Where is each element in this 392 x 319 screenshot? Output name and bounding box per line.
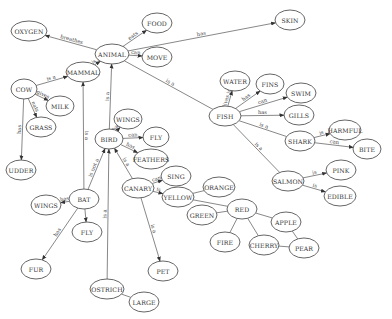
node-label: YELLOW xyxy=(163,194,193,201)
edge-label: is a xyxy=(254,141,265,152)
node-label: FOOD xyxy=(147,20,167,27)
node-pear: PEAR xyxy=(289,238,319,258)
edge-line xyxy=(83,82,84,189)
node-pink: PINK xyxy=(326,160,356,180)
node-label: UDDER xyxy=(9,167,34,174)
node-label: MILK xyxy=(51,103,69,110)
node-label: GREEN xyxy=(190,212,215,219)
edge-green-red xyxy=(217,211,228,213)
edge-line xyxy=(124,61,213,110)
edge-line xyxy=(217,211,228,213)
edge-label: is xyxy=(156,186,162,193)
edge-red-cherry xyxy=(248,218,259,235)
edge-label: is a xyxy=(259,121,270,130)
node-label: OXYGEN xyxy=(15,28,44,35)
node-harmful: HARMFUL xyxy=(327,120,362,140)
node-canary: CANARY xyxy=(122,178,154,198)
edge-label: is a xyxy=(122,156,132,167)
node-label: FUR xyxy=(29,266,44,273)
node-label: SHARK xyxy=(288,138,312,145)
node-fire: FIRE xyxy=(210,232,240,252)
node-label: BAT xyxy=(77,196,91,203)
node-label: LARGE xyxy=(132,299,156,306)
node-label: WINGS xyxy=(34,202,58,209)
edge-yellow-orange xyxy=(193,191,204,194)
edge-line xyxy=(123,138,143,139)
node-label: CANARY xyxy=(124,185,153,192)
edge-cherry-pear xyxy=(279,246,289,247)
node-label: MAMMAL xyxy=(67,69,100,76)
node-oxygen: OXYGEN xyxy=(11,21,47,41)
node-label: FEATHERS xyxy=(133,156,170,163)
node-label: FLY xyxy=(81,229,94,236)
node-wings-bird: WINGS xyxy=(114,109,142,129)
nodes-layer: OXYGENFOODSKINANIMALMOVEMAMMALCOWMILKGRA… xyxy=(6,10,381,312)
node-animal: ANIMAL xyxy=(95,44,129,64)
edge-label: can xyxy=(128,131,138,137)
edge-label: can xyxy=(131,49,141,56)
node-bat: BAT xyxy=(69,189,99,209)
edge-line xyxy=(122,294,131,297)
edge-label: is xyxy=(311,169,317,176)
node-red: RED xyxy=(227,199,257,219)
node-swim: SWIM xyxy=(286,83,316,103)
node-label: PET xyxy=(156,268,170,275)
node-label: MOVE xyxy=(147,54,168,61)
node-mammal: MAMMAL xyxy=(66,62,100,82)
node-label: PEAR xyxy=(295,245,313,252)
node-label: PINK xyxy=(332,167,349,174)
node-fur: FUR xyxy=(21,259,51,279)
edge-line xyxy=(279,246,289,247)
node-label: WATER xyxy=(223,78,247,85)
node-label: SWIM xyxy=(291,90,311,97)
edge-label: is a xyxy=(104,92,110,101)
node-label: GRASS xyxy=(30,124,53,131)
node-water: WATER xyxy=(220,71,250,91)
edge-line xyxy=(241,115,284,116)
edge-label: has xyxy=(258,109,268,115)
edge-bat-fly_bat xyxy=(85,209,86,222)
edge-line xyxy=(292,231,297,239)
edge-label: has xyxy=(16,124,22,134)
node-pet: PET xyxy=(148,261,178,281)
node-label: SING xyxy=(167,173,184,180)
node-label: COW xyxy=(16,86,33,93)
edge-label: is a xyxy=(101,209,107,218)
node-food: FOOD xyxy=(142,13,172,33)
node-label: ANIMAL xyxy=(97,51,126,58)
node-fly-bird: FLY xyxy=(143,127,169,147)
edge-line xyxy=(256,213,273,218)
node-udder: UDDER xyxy=(6,160,36,180)
edge-label: is xyxy=(312,182,318,189)
node-label: FIRE xyxy=(217,239,234,246)
node-green: GREEN xyxy=(187,205,217,225)
node-cow: COW xyxy=(11,79,37,99)
node-fly-bat: FLY xyxy=(72,222,102,242)
node-edible: EDIBLE xyxy=(324,186,356,206)
edge-label: gives xyxy=(35,89,51,101)
node-milk: MILK xyxy=(46,96,74,116)
node-label: OSTRICH xyxy=(91,286,123,293)
node-label: FINS xyxy=(262,81,279,88)
node-label: EDIBLE xyxy=(327,193,353,200)
edge-fish-animal xyxy=(124,61,213,110)
edge-label: is a xyxy=(84,131,90,140)
node-shark: SHARK xyxy=(285,131,315,151)
node-label: HARMFUL xyxy=(327,127,362,134)
edge-label: has xyxy=(240,92,251,102)
node-label: SKIN xyxy=(281,17,299,24)
edge-line xyxy=(85,209,86,222)
node-yellow: YELLOW xyxy=(162,187,194,207)
edge-fish-gills xyxy=(241,115,284,116)
node-wings-bat: WINGS xyxy=(31,195,61,215)
node-salmon: SALMON xyxy=(272,171,304,191)
node-grass: GRASS xyxy=(26,117,56,137)
node-label: ORANGE xyxy=(204,184,234,191)
edge-line xyxy=(193,191,204,194)
edge-bird-fly_bird xyxy=(123,138,143,139)
edge-label: has xyxy=(52,226,62,237)
edge-red-apple xyxy=(256,213,273,218)
node-label: BITE xyxy=(359,146,375,153)
edge-label: is not a xyxy=(87,158,100,178)
semantic-network-diagram: breatheseatshascanis ais ais ais agivese… xyxy=(0,0,392,319)
